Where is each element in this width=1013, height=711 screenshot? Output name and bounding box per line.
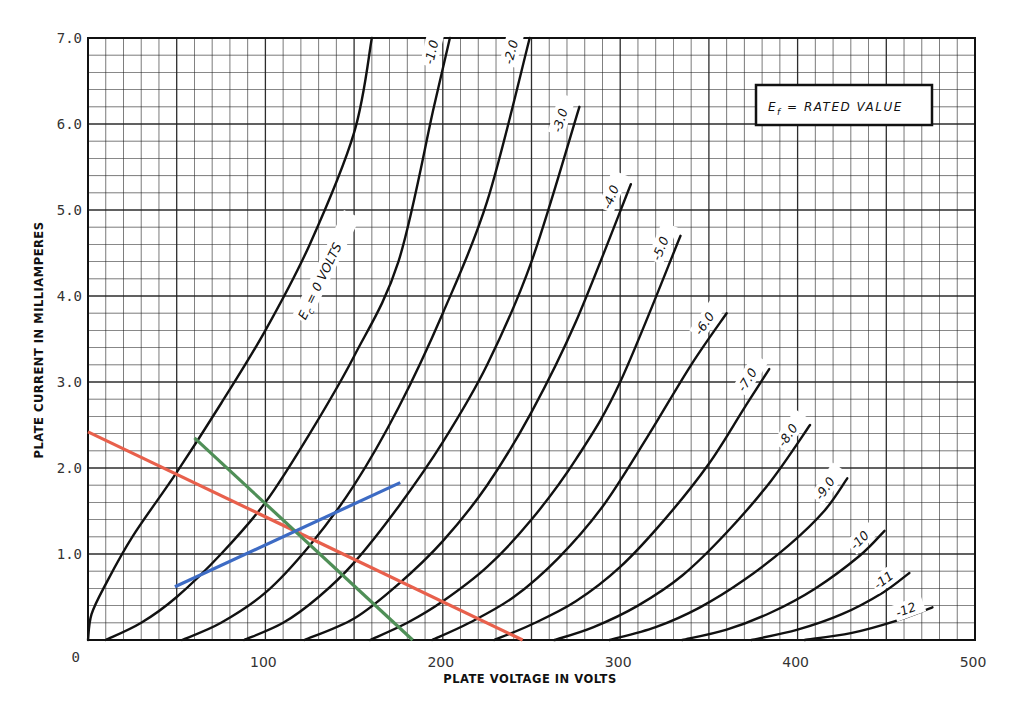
curve-label: -12 [891, 595, 926, 622]
curve-label: -10 [845, 521, 879, 555]
y-axis-ticks: 01.02.03.04.05.06.07.0 [57, 30, 82, 665]
y-tick-label: 2.0 [57, 460, 82, 476]
plate-characteristics-chart: 01.02.03.04.05.06.07.0 100200300400500 E… [0, 0, 1013, 711]
svg-text:-1.0: -1.0 [421, 39, 441, 66]
grid-voltage-curves [88, 38, 932, 640]
curve-label: -4.0 [597, 170, 628, 213]
y-axis-title: PLATE CURRENT IN MILLIAMPERES [32, 222, 46, 459]
curve-label: -7.0 [732, 353, 768, 396]
svg-text:Ec = 0 VOLTS: Ec = 0 VOLTS [295, 240, 348, 323]
y-tick-label: 1.0 [57, 546, 82, 562]
y-tick-label: 4.0 [57, 288, 82, 304]
curve-label: -2.0 [499, 25, 526, 68]
x-tick-label: 300 [605, 654, 632, 670]
plate-curve [244, 107, 579, 640]
curve-label: -1.0 [420, 25, 446, 68]
filament-annotation-box: Ef = RATED VALUE [756, 85, 932, 125]
plate-curve [106, 38, 450, 640]
y-tick-label: 0 [72, 649, 80, 665]
y-tick-label: 3.0 [57, 374, 82, 390]
y-tick-label: 6.0 [57, 116, 82, 132]
plate-curve [555, 425, 810, 640]
x-tick-label: 500 [960, 654, 987, 670]
x-tick-label: 400 [782, 654, 809, 670]
x-axis-ticks: 100200300400500 [250, 654, 986, 670]
curve-label: -6.0 [689, 297, 726, 340]
plate-curve [494, 369, 769, 640]
x-tick-label: 100 [250, 654, 277, 670]
plate-curve [432, 313, 726, 640]
x-axis-title: PLATE VOLTAGE IN VOLTS [443, 672, 616, 686]
grid [88, 38, 975, 640]
y-tick-label: 5.0 [57, 202, 82, 218]
svg-text:-3.0: -3.0 [549, 106, 571, 134]
curve-label: -8.0 [773, 409, 810, 452]
svg-text:-2.0: -2.0 [501, 38, 522, 65]
y-tick-label: 7.0 [57, 30, 82, 46]
x-tick-label: 200 [427, 654, 454, 670]
